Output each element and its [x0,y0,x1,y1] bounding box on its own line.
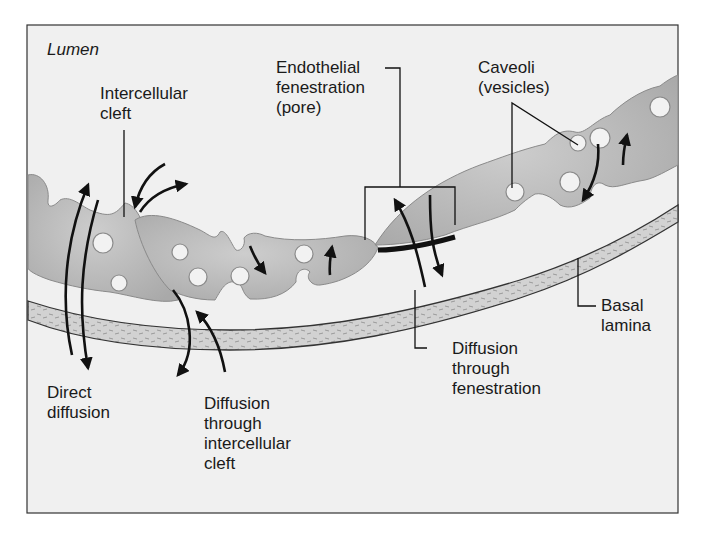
diffusion-cleft-label: Diffusion through intercellular cleft [204,394,291,474]
diffusion-fenestration-label: Diffusion through fenestration [452,339,541,399]
intercellular-cleft-label: Intercellular cleft [100,84,188,124]
basal-lamina-label: Basal lamina [601,296,651,336]
endothelial-fenestration-label: Endothelial fenestration (pore) [276,58,365,118]
direct-diffusion-label: Direct diffusion [47,383,110,423]
capillary-exchange-diagram: Lumen Intercellular cleft Endothelial fe… [0,0,709,545]
caveoli-label: Caveoli (vesicles) [478,58,550,98]
lumen-label: Lumen [47,40,99,60]
